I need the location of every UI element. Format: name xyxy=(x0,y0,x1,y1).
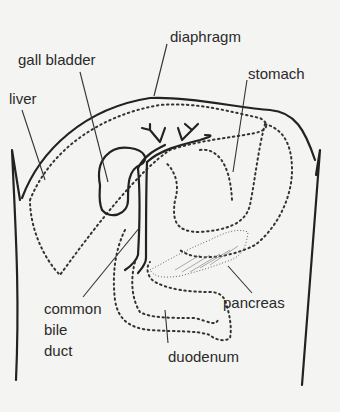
leader-gall-bladder xyxy=(80,72,108,182)
hepatic-duct xyxy=(138,135,210,168)
body-left-contour xyxy=(12,150,20,380)
body-right-contour xyxy=(302,150,320,385)
label-common-bile-duct-2: bile xyxy=(44,319,67,340)
label-gall-bladder: gall bladder xyxy=(18,49,96,70)
label-common-bile-duct-3: duct xyxy=(44,340,72,361)
leader-diaphragm xyxy=(154,44,167,96)
label-stomach: stomach xyxy=(248,63,305,84)
leader-pancreas xyxy=(228,266,252,293)
diaphragm-outline xyxy=(22,98,315,198)
leader-stomach xyxy=(233,80,247,172)
hepatic-branches xyxy=(142,124,198,142)
leader-duodenum xyxy=(165,310,168,343)
leader-liver xyxy=(22,110,45,180)
label-diaphragm: diaphragm xyxy=(170,26,241,47)
anatomy-diagram: diaphragm gall bladder liver stomach com… xyxy=(0,0,340,412)
label-liver: liver xyxy=(9,88,37,109)
label-duodenum: duodenum xyxy=(168,346,239,367)
pancreas-outline xyxy=(150,230,248,277)
pancreas-hatching xyxy=(175,246,238,272)
leader-common-bile-duct xyxy=(83,227,140,297)
bile-duct xyxy=(125,162,147,273)
label-pancreas: pancreas xyxy=(223,292,285,313)
label-common-bile-duct-1: common xyxy=(44,298,102,319)
